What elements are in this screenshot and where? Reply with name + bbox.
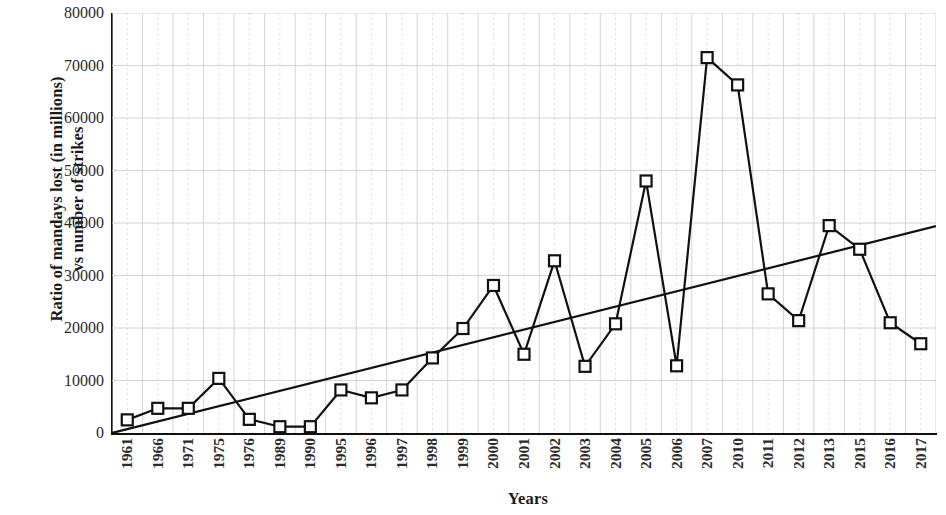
gridlines <box>112 13 936 433</box>
x-axis-title: Years <box>0 489 946 509</box>
y-axis-tick-label: 80000 <box>26 5 104 21</box>
line-chart: Ratio of mandays lost (in millions) vs n… <box>0 0 946 515</box>
y-axis-tick-label: 0 <box>26 425 104 441</box>
y-axis-tick-label: 70000 <box>26 58 104 74</box>
y-axis-tick-labels: 0100002000030000400005000060000700008000… <box>24 0 104 515</box>
plot-area <box>112 13 936 433</box>
data-series-line <box>127 58 920 427</box>
x-axis-line <box>111 433 937 435</box>
y-axis-tick-label: 30000 <box>26 268 104 284</box>
y-axis-tick-label: 50000 <box>26 163 104 179</box>
plot-svg <box>112 13 936 433</box>
y-axis-tick-label: 60000 <box>26 110 104 126</box>
y-axis-tick-label: 20000 <box>26 320 104 336</box>
y-axis-tick-label: 40000 <box>26 215 104 231</box>
y-axis-tick-label: 10000 <box>26 373 104 389</box>
